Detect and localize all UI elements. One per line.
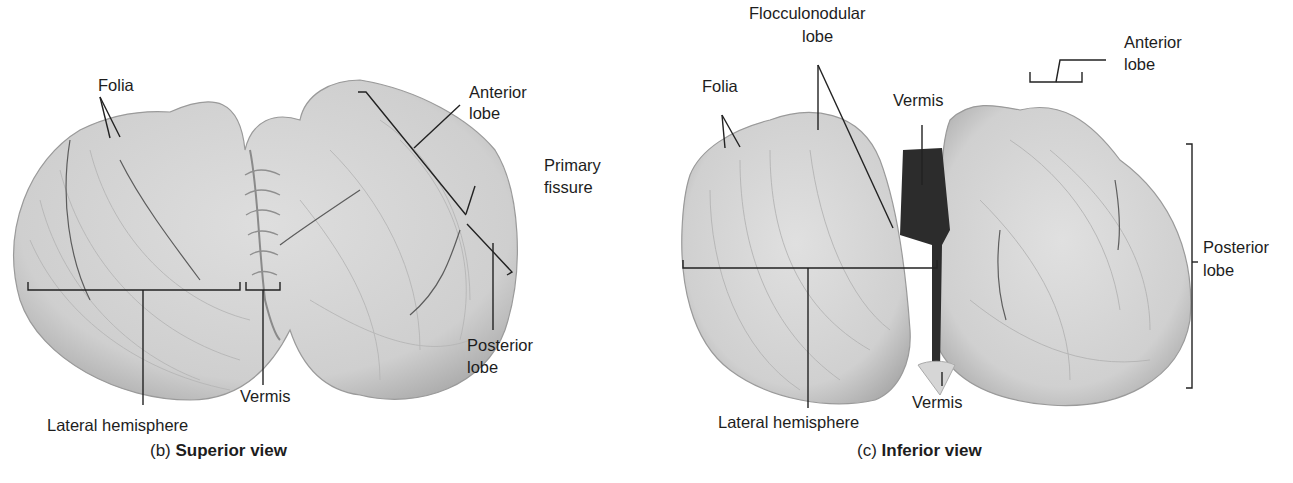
label-folia: Folia <box>98 76 134 95</box>
cerebellum-inferior-illustration <box>650 0 1293 483</box>
label-flocculonodular-line1: Flocculonodular <box>749 4 865 23</box>
label-anterior-lobe-line1: Anterior <box>469 83 527 102</box>
label-primary-fissure-line2: fissure <box>544 178 593 197</box>
label-primary-fissure-line1: Primary <box>544 156 601 175</box>
superior-view-panel: Folia Anterior lobe Primary fissure Post… <box>0 0 650 483</box>
label-anterior-lobe-line2: lobe <box>469 104 500 123</box>
label-vermis-top: Vermis <box>893 91 943 110</box>
label-anterior-lobe-line1: Anterior <box>1124 33 1182 52</box>
label-lateral-hemisphere: Lateral hemisphere <box>718 413 859 432</box>
label-vermis-bottom: Vermis <box>912 393 962 412</box>
caption-title: Superior view <box>176 441 287 460</box>
label-posterior-lobe-line2: lobe <box>467 358 498 377</box>
caption-prefix: (c) <box>857 441 877 460</box>
label-anterior-lobe-line2: lobe <box>1124 55 1155 74</box>
caption-inferior-view: (c) Inferior view <box>857 441 982 461</box>
caption-prefix: (b) <box>150 441 171 460</box>
label-posterior-lobe-line1: Posterior <box>467 336 533 355</box>
label-lateral-hemisphere: Lateral hemisphere <box>47 416 188 435</box>
inferior-view-panel: Flocculonodular lobe Folia Vermis Anteri… <box>650 0 1293 483</box>
label-folia: Folia <box>702 77 738 96</box>
label-flocculonodular-line2: lobe <box>802 27 833 46</box>
label-posterior-lobe-line2: lobe <box>1203 261 1234 280</box>
label-posterior-lobe-line1: Posterior <box>1203 238 1269 257</box>
label-vermis: Vermis <box>240 387 290 406</box>
caption-superior-view: (b) Superior view <box>150 441 287 461</box>
cerebellum-superior-illustration <box>0 0 650 483</box>
caption-title: Inferior view <box>882 441 982 460</box>
